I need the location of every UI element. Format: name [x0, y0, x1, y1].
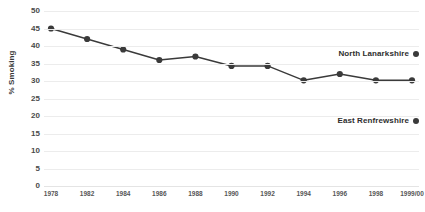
- y-tick-label: 15: [31, 130, 40, 138]
- x-tick-label: 1982: [80, 191, 94, 198]
- x-tick-label: 1996: [333, 191, 347, 198]
- y-axis-title: % Smoking: [7, 29, 16, 117]
- data-point-marker[interactable]: [192, 53, 198, 59]
- data-point-marker[interactable]: [120, 46, 126, 52]
- filled-circle-marker-icon: [413, 51, 419, 57]
- x-tick-label: 1984: [116, 191, 130, 198]
- data-point-marker[interactable]: [337, 71, 343, 77]
- gridline: [44, 46, 419, 47]
- legend-item-east-renfrewshire[interactable]: East Renfrewshire: [337, 116, 419, 125]
- gridline: [44, 151, 419, 152]
- plot-area: 0510152025303540455019781982198419861988…: [44, 11, 419, 186]
- legend-label-north-lanarkshire: North Lanarkshire: [338, 49, 409, 58]
- x-tick-label: 1999/00: [400, 191, 424, 198]
- y-tick-label: 40: [31, 42, 40, 50]
- x-tick-label: 1994: [296, 191, 310, 198]
- y-tick-label: 45: [31, 25, 40, 33]
- x-tick-label: 1990: [224, 191, 238, 198]
- x-tick-label: 1978: [44, 191, 58, 198]
- filled-circle-marker-icon: [413, 118, 419, 124]
- y-tick-label: 35: [31, 60, 40, 68]
- legend-item-north-lanarkshire[interactable]: North Lanarkshire: [338, 49, 419, 58]
- gridline: [44, 169, 419, 170]
- y-tick-label: 10: [31, 147, 40, 155]
- y-tick-label: 50: [31, 7, 40, 15]
- x-tick-label: 1988: [188, 191, 202, 198]
- y-tick-label: 25: [31, 95, 40, 103]
- y-tick-label: 30: [31, 77, 40, 85]
- chart-figure: % Smoking 051015202530354045501978198219…: [0, 0, 425, 212]
- y-tick-label: 0: [36, 182, 40, 190]
- x-tick-label: 1986: [152, 191, 166, 198]
- x-tick-label: 1998: [369, 191, 383, 198]
- gridline: [44, 186, 419, 187]
- y-tick-label: 5: [36, 165, 40, 173]
- gridline: [44, 11, 419, 12]
- data-point-marker[interactable]: [156, 57, 162, 63]
- legend-label-east-renfrewshire: East Renfrewshire: [337, 116, 409, 125]
- gridline: [44, 99, 419, 100]
- gridline: [44, 29, 419, 30]
- gridline: [44, 134, 419, 135]
- x-tick-label: 1992: [260, 191, 274, 198]
- data-point-marker[interactable]: [84, 36, 90, 42]
- y-tick-label: 20: [31, 112, 40, 120]
- gridline: [44, 81, 419, 82]
- gridline: [44, 64, 419, 65]
- chart-title: [55, 0, 355, 2]
